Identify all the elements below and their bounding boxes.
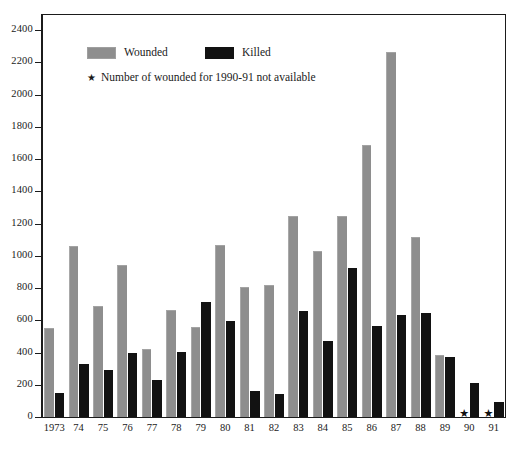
legend-footnote: ★Number of wounded for 1990-91 not avail…: [87, 70, 316, 85]
bar-killed: [397, 315, 407, 417]
legend-label-killed: Killed: [242, 44, 271, 61]
bar-killed: [226, 321, 236, 417]
bar-killed: [421, 313, 431, 417]
bar-wounded: [337, 216, 347, 417]
y-axis-tick: [35, 127, 42, 128]
y-axis-tick-label: 2000: [0, 89, 33, 99]
legend-swatch-killed: [205, 47, 234, 59]
bar-killed: [299, 311, 309, 417]
y-axis-tick: [35, 353, 42, 354]
y-axis-tick-label: 1600: [0, 153, 33, 163]
bar-wounded: [215, 245, 225, 417]
y-axis-tick-label: 400: [0, 347, 33, 357]
bar-killed: [494, 402, 504, 417]
bar-wounded: [240, 287, 250, 417]
bar-killed: [470, 383, 480, 417]
bar-killed: [323, 341, 333, 417]
y-axis-tick: [35, 320, 42, 321]
bar-wounded: [386, 52, 396, 417]
y-axis-tick-label: 1000: [0, 250, 33, 260]
star-icon: ★: [87, 70, 101, 85]
y-axis-tick-label: 2400: [0, 24, 33, 34]
legend-entries: Wounded Killed: [87, 44, 387, 62]
bar-killed: [372, 326, 382, 417]
y-axis-tick: [35, 256, 42, 257]
y-axis-tick-label: 1200: [0, 218, 33, 228]
star-icon: ★: [458, 408, 470, 419]
bar-wounded: [264, 285, 274, 417]
bar-wounded: [44, 328, 54, 417]
y-axis-tick: [35, 159, 42, 160]
y-axis-tick-label: 1400: [0, 185, 33, 195]
y-axis-tick: [35, 95, 42, 96]
y-axis-tick-label: 1800: [0, 121, 33, 131]
legend-label-wounded: Wounded: [124, 44, 168, 61]
bar-killed: [177, 352, 187, 417]
x-axis-labels: 1973747576777879808182838485868788899091: [42, 421, 506, 441]
legend-swatch-wounded: [87, 47, 116, 59]
y-axis-tick-label: 0: [0, 411, 33, 421]
y-axis-tick: [35, 417, 42, 418]
chart-legend: Wounded Killed ★Number of wounded for 19…: [87, 44, 387, 62]
x-axis-line: [42, 417, 506, 418]
y-axis-labels: 0200400600800100012001400160018002000220…: [0, 0, 33, 453]
bar-killed: [348, 268, 358, 417]
star-icon: ★: [483, 408, 495, 419]
y-axis-tick-label: 800: [0, 282, 33, 292]
bar-wounded: [69, 246, 79, 417]
bar-killed: [201, 302, 211, 417]
y-axis-tick: [35, 191, 42, 192]
bar-killed: [445, 357, 455, 417]
y-axis-tick: [35, 30, 42, 31]
bar-killed: [152, 380, 162, 417]
bar-wounded: [142, 349, 152, 417]
bar-killed: [55, 393, 65, 417]
bar-wounded: [288, 216, 298, 417]
bar-wounded: [191, 327, 201, 417]
bar-wounded: [362, 145, 372, 417]
y-axis-tick-label: 200: [0, 379, 33, 389]
bar-wounded: [313, 251, 323, 417]
bar-wounded: [117, 265, 127, 417]
y-axis-tick: [35, 288, 42, 289]
y-axis-tick: [35, 385, 42, 386]
y-axis-tick-label: 2200: [0, 56, 33, 66]
bar-chart: 0200400600800100012001400160018002000220…: [0, 0, 520, 453]
y-axis-tick: [35, 224, 42, 225]
bar-killed: [250, 391, 260, 417]
bar-wounded: [411, 237, 421, 417]
bar-wounded: [93, 306, 103, 417]
bar-killed: [128, 353, 138, 417]
bar-killed: [275, 394, 285, 417]
y-axis-tick: [35, 62, 42, 63]
bar-wounded: [435, 355, 445, 417]
y-axis-tick-label: 600: [0, 314, 33, 324]
bar-wounded: [166, 310, 176, 417]
bar-killed: [79, 364, 89, 417]
x-axis-tick-label: 91: [476, 421, 512, 435]
legend-footnote-text: Number of wounded for 1990-91 not availa…: [101, 71, 316, 83]
bar-killed: [104, 370, 114, 417]
